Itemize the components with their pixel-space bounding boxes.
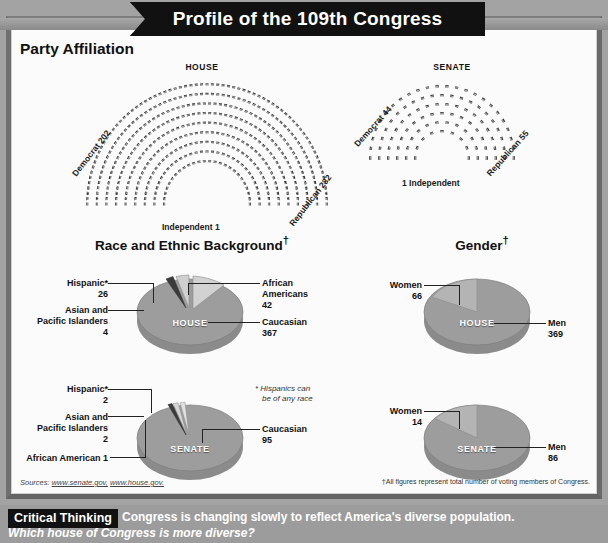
leader-line bbox=[110, 457, 146, 458]
senate-race-pie-top bbox=[137, 400, 243, 472]
house-seating-caption: HOUSE bbox=[162, 62, 242, 72]
leader-line bbox=[202, 429, 260, 430]
senate-race-chamber-label: SENATE bbox=[137, 444, 243, 454]
critical-thinking-statement: Congress is changing slowly to reflect A… bbox=[122, 510, 515, 524]
house-race-hispanic-label: Hispanic* 26 bbox=[20, 278, 108, 300]
race-heading-dagger: † bbox=[283, 234, 289, 246]
house-gender-men-name: Men bbox=[548, 318, 597, 329]
leader-line bbox=[459, 411, 460, 429]
house-gender-women-name: Women bbox=[364, 280, 422, 291]
leader-line bbox=[151, 389, 152, 413]
house-race-asian-label: Asian and Pacific Islanders 4 bbox=[12, 305, 108, 338]
senate-race-caucasian-label: Caucasian 95 bbox=[262, 424, 372, 446]
house-race-asian-name-2: Pacific Islanders bbox=[12, 316, 108, 327]
house-independent-label: Independent 1 bbox=[162, 222, 220, 232]
senate-gender-women-name: Women bbox=[364, 406, 422, 417]
house-race-asian-value: 4 bbox=[12, 327, 108, 338]
senate-gender-women-value: 14 bbox=[364, 417, 422, 428]
hispanic-footnote-line1: * Hispanics can bbox=[255, 384, 313, 394]
house-race-african-name-2: Americans bbox=[262, 289, 372, 300]
house-seating-chart bbox=[67, 72, 347, 212]
house-gender-pie: HOUSE bbox=[424, 274, 530, 358]
house-race-caucasian-name: Caucasian bbox=[262, 317, 372, 328]
leader-line bbox=[494, 323, 546, 324]
leader-line bbox=[108, 389, 152, 390]
race-heading-text: Race and Ethnic Background bbox=[95, 238, 283, 253]
senate-race-pie: SENATE bbox=[137, 400, 243, 484]
leader-line bbox=[459, 285, 460, 305]
house-race-caucasian-value: 367 bbox=[262, 328, 372, 339]
sources-line: Sources: www.senate.gov, www.house.gov. bbox=[20, 478, 164, 487]
gender-heading-dagger: † bbox=[503, 234, 509, 246]
senate-independent-label: 1 Independent bbox=[402, 178, 460, 188]
leader-line bbox=[108, 283, 154, 284]
senate-gender-men-name: Men bbox=[548, 442, 597, 453]
house-race-caucasian-label: Caucasian 367 bbox=[262, 317, 372, 339]
party-affiliation-heading: Party Affiliation bbox=[20, 40, 134, 58]
house-race-african-label: African Americans 42 bbox=[262, 278, 372, 311]
sources-label: Sources: bbox=[20, 478, 50, 487]
title-banner-group: Profile of the 109th Congress bbox=[0, 0, 608, 40]
page-title: Profile of the 109th Congress bbox=[130, 2, 485, 36]
senate-gender-chamber-label: SENATE bbox=[424, 444, 530, 454]
leader-line bbox=[145, 420, 146, 458]
leader-line bbox=[188, 283, 260, 284]
house-gender-men-label: Men 369 bbox=[548, 318, 597, 340]
critical-thinking-question: Which house of Congress is more diverse? bbox=[8, 526, 255, 540]
house-race-hispanic-name: Hispanic* bbox=[20, 278, 108, 289]
leader-line bbox=[188, 283, 189, 295]
source-link-house[interactable]: www.house.gov. bbox=[110, 478, 164, 487]
hispanic-footnote-line2: be of any race bbox=[255, 394, 313, 404]
senate-gender-men-value: 86 bbox=[548, 453, 597, 464]
infographic-page: Party Affiliation HOUSE SENATE Democrat … bbox=[0, 0, 608, 543]
senate-race-hispanic-value: 2 bbox=[22, 395, 108, 406]
senate-race-caucasian-name: Caucasian bbox=[262, 424, 372, 435]
race-heading: Race and Ethnic Background† bbox=[72, 234, 312, 253]
leader-line bbox=[108, 416, 144, 417]
leader-line bbox=[424, 411, 460, 412]
senate-gender-women-label: Women 14 bbox=[364, 406, 422, 428]
senate-race-asian-label: Asian and Pacific Islanders 2 bbox=[12, 412, 108, 445]
gender-heading-text: Gender bbox=[455, 238, 502, 253]
hispanic-footnote: * Hispanics can be of any race bbox=[255, 384, 313, 404]
leader-line bbox=[202, 429, 203, 443]
senate-race-caucasian-value: 95 bbox=[262, 435, 372, 446]
poster-content: Party Affiliation HOUSE SENATE Democrat … bbox=[11, 21, 597, 494]
house-gender-men-value: 369 bbox=[548, 329, 597, 340]
senate-race-asian-value: 2 bbox=[12, 434, 108, 445]
senate-race-hispanic-name: Hispanic* bbox=[22, 384, 108, 395]
senate-gender-men-label: Men 86 bbox=[548, 442, 597, 464]
gender-heading: Gender† bbox=[412, 234, 552, 253]
source-link-senate[interactable]: www.senate.gov, bbox=[52, 478, 108, 487]
house-race-african-name-1: African bbox=[262, 278, 372, 289]
house-gender-women-label: Women 66 bbox=[364, 280, 422, 302]
house-race-african-value: 42 bbox=[262, 300, 372, 311]
house-race-hispanic-value: 26 bbox=[20, 289, 108, 300]
house-race-asian-name-1: Asian and bbox=[12, 305, 108, 316]
house-race-chamber-label: HOUSE bbox=[137, 318, 243, 328]
senate-race-hispanic-label: Hispanic* 2 bbox=[22, 384, 108, 406]
figures-footnote: †All figures represent total number of v… bbox=[382, 478, 590, 485]
senate-race-asian-name-2: Pacific Islanders bbox=[12, 423, 108, 434]
senate-gender-pie: SENATE bbox=[424, 400, 530, 484]
leader-line bbox=[424, 285, 460, 286]
senate-race-african-label: African American 1 bbox=[12, 453, 108, 464]
leader-line bbox=[108, 310, 144, 311]
house-gender-women-value: 66 bbox=[364, 291, 422, 302]
leader-line bbox=[494, 447, 546, 448]
senate-race-asian-name-1: Asian and bbox=[12, 412, 108, 423]
leader-line bbox=[208, 322, 260, 323]
leader-line bbox=[153, 283, 154, 303]
